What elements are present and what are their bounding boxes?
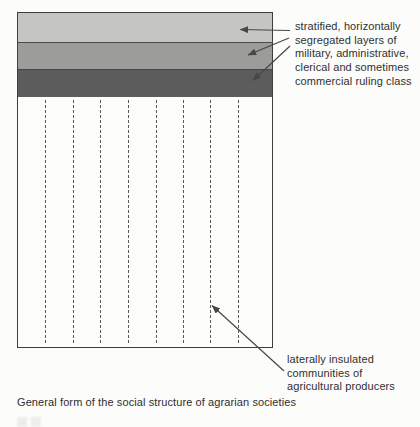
ruling-class-label-line: military, administrative,	[295, 47, 412, 61]
ruling-class-label-line: clerical and sometimes	[295, 61, 412, 75]
producers-label-line: communities of	[287, 367, 395, 381]
producers-label-line: laterally insulated	[287, 353, 395, 367]
ruling-class-label-line: segregated layers of	[295, 34, 412, 48]
stratum-middle-band	[18, 43, 272, 70]
community-divider-line	[100, 100, 101, 343]
stratum-bottom-band	[18, 70, 272, 97]
community-divider-line	[73, 100, 74, 343]
cropped-print-fragment	[17, 417, 43, 427]
ruling-class-label-line: stratified, horizontally	[295, 20, 412, 34]
community-divider-line	[45, 100, 46, 343]
ruling-class-label-line: commercial ruling class	[295, 75, 412, 89]
figure-caption: General form of the social structure of …	[17, 396, 296, 409]
ruling-class-label: stratified, horizontally segregated laye…	[295, 20, 412, 89]
producers-label-line: agricultural producers	[287, 380, 395, 394]
stratum-top-band	[18, 13, 272, 43]
producers-label: laterally insulated communities of agric…	[287, 353, 395, 394]
community-divider-line	[128, 100, 129, 343]
society-structure-box	[17, 12, 273, 348]
community-divider-line	[156, 100, 157, 343]
community-columns	[18, 100, 272, 343]
community-divider-line	[183, 100, 184, 343]
community-divider-line	[210, 100, 211, 343]
community-divider-line	[238, 100, 239, 343]
